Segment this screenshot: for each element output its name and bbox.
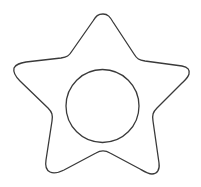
drawing-canvas: Rounded star outline with inner circle: [0, 0, 201, 187]
star-with-circle-illustration: Rounded star outline with inner circle: [0, 0, 201, 187]
